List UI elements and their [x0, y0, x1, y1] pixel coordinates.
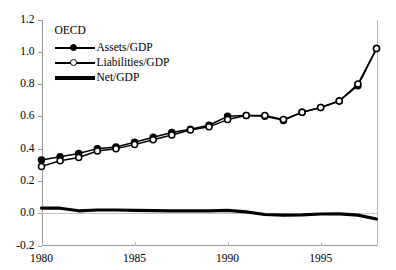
chart-legend: OECD Assets/GDP Liabilities/GDP Net/GDP — [55, 25, 170, 86]
data-point-marker — [169, 132, 175, 138]
legend-entry-liabilities: Liabilities/GDP — [55, 55, 170, 70]
data-point-marker — [113, 146, 119, 152]
data-point-marker — [262, 113, 268, 119]
legend-marker-liabilities-icon — [55, 56, 95, 70]
data-point-marker — [76, 155, 82, 161]
legend-entry-net: Net/GDP — [55, 70, 170, 85]
series-net-gdp — [42, 208, 377, 219]
data-point-marker — [336, 98, 342, 104]
data-point-marker — [374, 46, 380, 52]
legend-label-liabilities: Liabilities/GDP — [95, 57, 170, 69]
legend-entry-assets: Assets/GDP — [55, 40, 170, 55]
legend-marker-assets-icon — [55, 41, 95, 55]
series-line — [42, 208, 377, 219]
data-point-marker — [39, 157, 45, 163]
legend-label-assets: Assets/GDP — [95, 42, 153, 54]
data-point-marker — [280, 117, 286, 123]
data-point-marker — [39, 163, 45, 169]
data-point-marker — [150, 137, 156, 143]
legend-marker-net-icon — [55, 71, 95, 85]
data-point-marker — [57, 158, 63, 164]
legend-label-net: Net/GDP — [95, 72, 140, 84]
legend-title: OECD — [55, 25, 170, 37]
data-point-marker — [94, 148, 100, 154]
data-point-marker — [299, 109, 305, 115]
data-point-marker — [206, 124, 212, 130]
data-point-marker — [225, 117, 231, 123]
data-point-marker — [318, 104, 324, 110]
data-point-marker — [187, 127, 193, 133]
data-point-marker — [132, 142, 138, 148]
data-point-marker — [243, 113, 249, 119]
data-point-marker — [355, 81, 361, 87]
chart-container: -0.20.00.20.40.60.81.01.2 19801985199019… — [0, 0, 396, 270]
